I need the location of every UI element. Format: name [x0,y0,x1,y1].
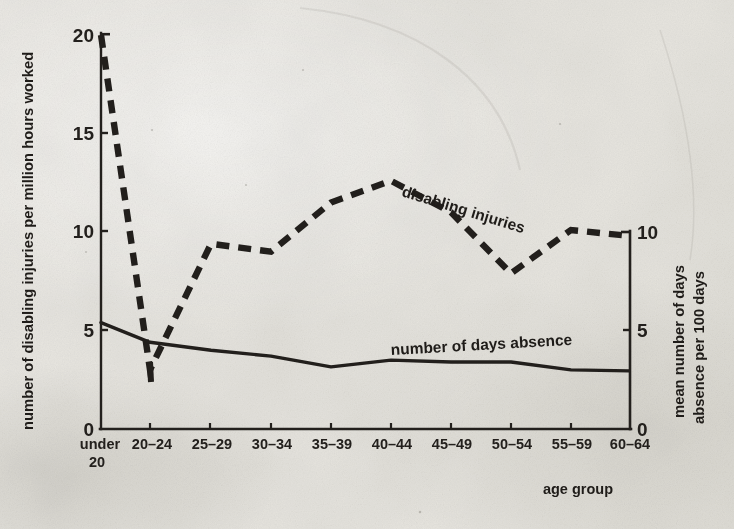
right-axis-tick-labels: 10 5 0 [637,222,658,440]
cat-label-45-49: 45–49 [432,436,472,452]
left-tick-15: 15 [73,123,95,144]
series-label-disabling-injuries: disabling injuries [400,183,527,237]
series-label-days-absence: number of days absence [390,331,573,358]
left-tick-5: 5 [83,320,94,341]
cat-label-20-24: 20–24 [132,436,172,452]
cat-label-40-44: 40–44 [372,436,412,452]
cat-label-under20-line1: under [80,436,121,452]
cat-label-55-59: 55–59 [552,436,592,452]
x-axis-category-labels: under 20 20–24 25–29 30–34 35–39 40–44 4… [80,436,650,470]
left-axis-title: number of disabling injuries per million… [20,52,36,430]
cat-label-under20-line2: 20 [89,454,105,470]
x-axis-title: age group [543,481,613,497]
left-axis-tick-labels: 20 15 10 5 0 [73,25,95,440]
right-tick-5: 5 [637,320,648,341]
left-tick-10: 10 [73,221,94,242]
cat-label-50-54: 50–54 [492,436,532,452]
chart-svg: 20 15 10 5 0 10 5 0 number of disabling … [0,0,734,529]
left-axis [101,33,110,429]
right-axis-title-line2: absence per 100 days [691,271,707,424]
cat-label-35-39: 35–39 [312,436,352,452]
right-tick-10: 10 [637,222,658,243]
cat-label-60-64: 60–64 [610,436,650,452]
cat-label-25-29: 25–29 [192,436,232,452]
right-axis-title-line1: mean number of days [671,265,687,418]
left-tick-20: 20 [73,25,94,46]
chart-figure: 20 15 10 5 0 10 5 0 number of disabling … [0,0,734,529]
x-axis [100,423,631,429]
series-disabling-injuries [101,35,629,382]
right-axis [621,231,630,429]
cat-label-30-34: 30–34 [252,436,292,452]
